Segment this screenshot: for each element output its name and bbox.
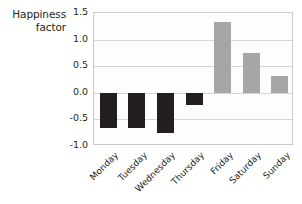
y-axis-tick-label: -1.0 [60, 140, 88, 150]
bar-thursday [186, 93, 203, 105]
bar-friday [214, 22, 231, 93]
bar-wednesday [157, 93, 174, 133]
y-axis-tick-label: 0.0 [60, 87, 88, 97]
bar-saturday [243, 53, 260, 93]
bar-chart-figure: Happiness factor 1.51.00.50.0-0.5-1.0 Mo… [0, 0, 302, 204]
y-axis-tick-label: 1.0 [60, 34, 88, 44]
bar-sunday [271, 76, 288, 93]
y-axis-title-line1: Happiness [0, 8, 66, 21]
gridline [94, 66, 292, 67]
gridline [94, 119, 292, 120]
plot-area [93, 12, 293, 145]
y-axis-tick-label: 1.5 [60, 7, 88, 17]
bar-monday [100, 93, 117, 129]
y-axis-title-line2: factor [0, 21, 66, 34]
y-axis-tick-label: 0.5 [60, 60, 88, 70]
y-axis-tick-label: -0.5 [60, 113, 88, 123]
y-axis-title: Happiness factor [0, 8, 66, 33]
bar-tuesday [128, 93, 145, 129]
gridline [94, 40, 292, 41]
